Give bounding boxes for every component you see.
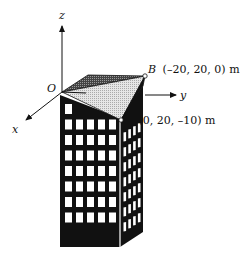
window [98, 213, 105, 223]
window [109, 197, 116, 207]
window [124, 207, 127, 217]
window [128, 219, 131, 229]
window [65, 104, 72, 114]
window [65, 166, 72, 176]
window [138, 183, 141, 193]
z-axis-label: z [58, 9, 65, 22]
window [98, 135, 105, 145]
window [138, 213, 141, 223]
window [133, 201, 136, 211]
window [133, 141, 136, 151]
window [65, 135, 72, 145]
window [128, 189, 131, 199]
window [128, 159, 131, 169]
window [133, 171, 136, 181]
point-b-coords: (–20, 20, 0) m [163, 63, 241, 76]
window [128, 204, 131, 214]
window [98, 120, 105, 130]
window [109, 135, 116, 145]
point-a-name: A [123, 114, 132, 127]
window [65, 182, 72, 192]
window [98, 197, 105, 207]
window [87, 182, 94, 192]
window [98, 166, 105, 176]
point-b-marker [143, 74, 147, 78]
window [109, 120, 116, 130]
window [76, 213, 83, 223]
window [138, 153, 141, 163]
window [65, 151, 72, 161]
window [65, 120, 72, 130]
window [87, 151, 94, 161]
window [87, 135, 94, 145]
window [109, 151, 116, 161]
window [65, 197, 72, 207]
window [138, 138, 141, 148]
window [128, 129, 131, 139]
point-a-coords: (0, 20, –10) m [138, 114, 216, 127]
window [133, 186, 136, 196]
window [138, 198, 141, 208]
x-axis [26, 92, 62, 120]
window [109, 213, 116, 223]
window [87, 197, 94, 207]
window [76, 120, 83, 130]
window [109, 182, 116, 192]
window [98, 182, 105, 192]
window [133, 126, 136, 136]
window [124, 147, 127, 157]
window [76, 135, 83, 145]
window [65, 213, 72, 223]
window [133, 156, 136, 166]
point-a-marker [119, 118, 123, 122]
window [124, 162, 127, 172]
window [124, 192, 127, 202]
building-vector-diagram: z y x O B (–20, 20, 0) m A (0, 20, –10) … [0, 0, 247, 261]
window [128, 144, 131, 154]
window [98, 151, 105, 161]
point-b-name: B [147, 63, 156, 76]
window [133, 216, 136, 226]
x-axis-label: x [12, 123, 19, 136]
window [124, 222, 127, 232]
y-axis-label: y [179, 89, 187, 102]
origin-label: O [47, 82, 56, 95]
window [87, 213, 94, 223]
window [128, 174, 131, 184]
window [76, 182, 83, 192]
point-b-label: B (–20, 20, 0) m [147, 63, 240, 76]
window [124, 132, 127, 142]
building-front-face [60, 95, 120, 247]
window [109, 166, 116, 176]
window [87, 120, 94, 130]
window [124, 177, 127, 187]
window [76, 166, 83, 176]
window [138, 168, 141, 178]
window [76, 197, 83, 207]
window [87, 166, 94, 176]
window [76, 151, 83, 161]
